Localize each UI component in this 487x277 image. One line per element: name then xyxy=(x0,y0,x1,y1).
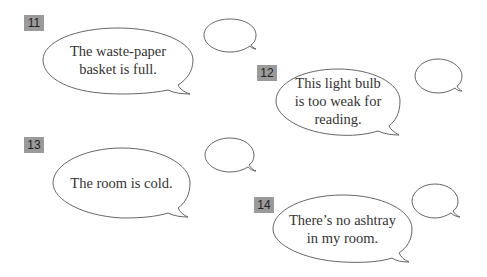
statement-line: There’s no ashtray xyxy=(273,211,412,229)
statement-line: reading. xyxy=(276,110,400,128)
statement-line: in my room. xyxy=(273,229,412,247)
answer-bubble-input[interactable] xyxy=(208,22,252,48)
exercise-number-badge: 12 xyxy=(257,65,277,81)
exercise-number-badge: 14 xyxy=(254,197,274,213)
speech-bubble-text: The room is cold. xyxy=(53,174,190,192)
exercise-number-badge: 11 xyxy=(24,15,44,31)
answer-bubble-input[interactable] xyxy=(419,62,459,89)
exercise-number-badge: 13 xyxy=(24,137,44,153)
statement-line: The waste-paper xyxy=(43,42,193,60)
statement-line: The room is cold. xyxy=(53,174,190,192)
speech-bubble-text: This light bulb is too weak for reading. xyxy=(276,74,400,128)
speech-bubble-text: There’s no ashtray in my room. xyxy=(273,211,412,247)
answer-bubble-input[interactable] xyxy=(416,187,455,214)
exercise-page: 11 The waste-paper basket is full. 12 Th… xyxy=(0,0,487,277)
statement-line: basket is full. xyxy=(43,60,193,78)
statement-line: This light bulb xyxy=(276,74,400,92)
answer-bubble-input[interactable] xyxy=(209,141,251,168)
statement-line: is too weak for xyxy=(276,92,400,110)
speech-bubble-text: The waste-paper basket is full. xyxy=(43,42,193,78)
